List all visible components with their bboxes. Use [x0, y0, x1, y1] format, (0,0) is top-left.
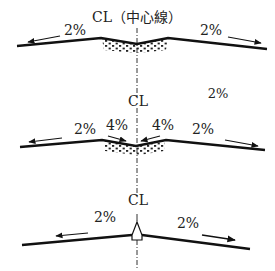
centerline-label-mid: CL — [128, 93, 148, 109]
centerline-label-top: CL（中心線） — [92, 9, 182, 25]
slope-arrow-left — [56, 233, 88, 236]
slope-label-outer-right: 2% — [192, 121, 214, 137]
slope-arrow-inner-left — [108, 136, 126, 141]
slope-arrow-left — [28, 36, 60, 42]
slope-label-outer-left: 2% — [74, 121, 96, 137]
slope-arrow-outer-right — [225, 140, 258, 146]
slope-label-inner-left: 4% — [106, 117, 128, 133]
section-depressed-center: 2% CL 2% 4% 4% 2% — [20, 86, 265, 155]
centerline-label-bottom: CL — [128, 192, 148, 208]
slope-arrow-right — [228, 37, 261, 43]
slope-arrow-outer-left — [29, 138, 62, 142]
slope-arrow-inner-right — [141, 136, 160, 141]
floating-slope-label: 2% — [208, 86, 229, 101]
slope-label-right: 2% — [200, 22, 222, 38]
slope-label-inner-right: 4% — [152, 117, 174, 133]
section-gravel-center: CL（中心線） 2% 2% — [17, 9, 267, 53]
crown-marker-icon — [132, 222, 142, 240]
slope-label-left: 2% — [94, 209, 116, 225]
slope-arrow-right — [202, 235, 235, 240]
slope-label-left: 2% — [64, 22, 86, 38]
road-crown-diagram: CL（中心線） 2% 2% 2% CL 2% 4% 4% 2% CL — [0, 0, 275, 271]
section-crowned-center: CL 2% 2% — [22, 192, 250, 249]
slope-label-right: 2% — [177, 215, 199, 231]
